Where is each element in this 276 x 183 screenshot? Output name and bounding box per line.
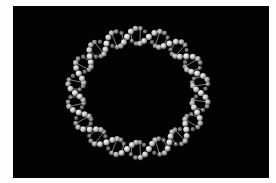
nucleotide-sphere: [73, 65, 79, 71]
nucleotide-sphere: [122, 142, 126, 146]
dna-ring-image: [13, 6, 269, 178]
nucleotide-sphere: [87, 134, 91, 138]
nucleotide-sphere: [130, 39, 134, 43]
nucleotide-sphere: [80, 105, 84, 109]
nucleotide-sphere: [103, 134, 107, 138]
nucleotide-sphere: [205, 82, 210, 87]
nucleotide-sphere: [191, 127, 195, 131]
nucleotide-sphere: [103, 139, 109, 145]
nucleotide-sphere: [174, 142, 178, 146]
nucleotide-sphere: [182, 121, 188, 127]
nucleotide-sphere: [141, 38, 147, 44]
nucleotide-sphere: [193, 86, 199, 92]
photo-frame: Circular DNA: [0, 0, 276, 183]
nucleotide-sphere: [146, 34, 152, 40]
nucleotide-sphere: [205, 104, 210, 109]
nucleotide-sphere: [102, 47, 108, 53]
nucleotide-sphere: [152, 151, 156, 155]
nucleotide-sphere: [184, 133, 190, 139]
nucleotide-sphere: [133, 155, 138, 160]
nucleotide-sphere: [157, 29, 163, 34]
nucleotide-sphere: [103, 41, 109, 47]
nucleotide-sphere: [189, 112, 193, 116]
nucleotide-sphere: [201, 108, 205, 112]
nucleotide-sphere: [119, 150, 125, 156]
nucleotide-sphere: [92, 141, 98, 147]
dna-strand-back: [66, 26, 211, 160]
nucleotide-sphere: [183, 53, 189, 59]
nucleotide-sphere: [138, 155, 144, 161]
nucleotide-sphere: [190, 54, 196, 60]
nucleotide-sphere: [87, 127, 93, 133]
nucleotide-sphere: [76, 70, 82, 76]
nucleotide-sphere: [76, 109, 82, 115]
nucleotide-sphere: [194, 70, 200, 76]
nucleotide-sphere: [188, 69, 194, 75]
nucleotide-sphere: [166, 35, 170, 39]
nucleotide-sphere: [177, 54, 183, 60]
nucleotide-sphere: [87, 53, 93, 59]
nucleotide-sphere: [75, 124, 81, 130]
nucleotide-sphere: [183, 127, 189, 133]
nucleotide-sphere: [66, 77, 71, 82]
nucleotide-sphere: [74, 116, 78, 120]
nucleotide-sphere: [110, 44, 114, 48]
nucleotide-sphere: [161, 138, 165, 142]
nucleotide-sphere: [68, 95, 72, 99]
nucleotide-sphere: [66, 104, 72, 110]
nucleotide-sphere: [88, 42, 94, 48]
nucleotide-sphere: [66, 100, 71, 105]
nucleotide-sphere: [124, 146, 130, 152]
nucleotide-sphere: [94, 55, 98, 59]
nucleotide-sphere: [192, 76, 196, 80]
nucleotide-sphere: [166, 41, 172, 47]
nucleotide-sphere: [194, 109, 200, 115]
nucleotide-sphere: [98, 40, 102, 44]
nucleotide-sphere: [143, 29, 147, 33]
nucleotide-sphere: [173, 39, 179, 45]
nucleotide-sphere: [88, 59, 94, 65]
nucleotide-sphere: [133, 26, 139, 32]
nucleotide-sphere: [119, 31, 123, 35]
nucleotide-sphere: [109, 137, 115, 143]
nucleotide-sphere: [157, 152, 162, 157]
nucleotide-sphere: [83, 70, 87, 74]
nucleotide-sphere: [89, 122, 93, 126]
nucleotide-sphere: [185, 48, 189, 52]
nucleotide-sphere: [203, 87, 207, 91]
nucleotide-sphere: [182, 138, 188, 144]
nucleotide-sphere: [113, 152, 119, 158]
nucleotide-sphere: [124, 34, 130, 40]
nucleotide-sphere: [151, 30, 157, 36]
nucleotide-sphere: [191, 104, 197, 110]
nucleotide-sphere: [129, 142, 135, 148]
nucleotide-sphere: [106, 146, 110, 150]
nucleotide-sphere: [109, 30, 115, 35]
nucleotide-sphere: [168, 133, 174, 139]
nucleotide-sphere: [78, 87, 82, 91]
nucleotide-sphere: [149, 141, 155, 147]
nucleotide-sphere: [138, 26, 143, 31]
nucleotide-sphere: [121, 39, 127, 45]
nucleotide-sphere: [204, 77, 210, 83]
nucleotide-sphere: [195, 56, 201, 62]
nucleotide-sphere: [93, 126, 99, 132]
nucleotide-sphere: [198, 66, 202, 70]
nucleotide-sphere: [114, 29, 119, 34]
nucleotide-sphere: [72, 90, 78, 96]
nucleotide-sphere: [161, 43, 167, 49]
nucleotide-sphere: [198, 121, 204, 127]
dna-strand-front: [65, 26, 210, 161]
nucleotide-sphere: [166, 139, 172, 145]
nucleotide-sphere: [86, 47, 92, 53]
nucleotide-sphere: [129, 152, 133, 156]
nucleotide-sphere: [150, 40, 154, 44]
nucleotide-sphere: [194, 94, 198, 98]
nucleotide-sphere: [183, 60, 187, 64]
nucleotide-sphere: [80, 126, 86, 132]
nucleotide-sphere: [79, 76, 85, 82]
nucleotide-sphere: [205, 99, 211, 105]
nucleotide-sphere: [73, 60, 79, 65]
nucleotide-sphere: [109, 150, 114, 155]
nucleotide-sphere: [71, 74, 75, 78]
